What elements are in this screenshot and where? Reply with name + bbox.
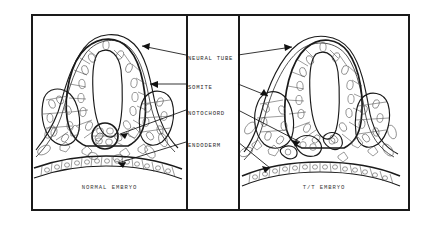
label-notochord: NOTOCHORD	[188, 110, 225, 117]
panel-normal-embryo: NORMAL EMBRYO	[31, 14, 188, 211]
label-neural-tube: NEURAL TUBE	[188, 55, 233, 62]
label-endoderm: ENDODERM	[188, 142, 221, 149]
panel-mutant-caption: T/T EMBRYO	[240, 184, 408, 191]
label-column: NEURAL TUBE SOMITE NOTOCHORD ENDODERM	[188, 14, 238, 211]
panel-mutant-embryo: T/T EMBRYO	[238, 14, 410, 211]
figure-root: NORMAL EMBRYO T/T EMBRYO NEURAL TUBE SOM…	[0, 0, 424, 226]
label-somite: SOMITE	[188, 84, 213, 91]
panel-normal-caption: NORMAL EMBRYO	[33, 184, 186, 191]
